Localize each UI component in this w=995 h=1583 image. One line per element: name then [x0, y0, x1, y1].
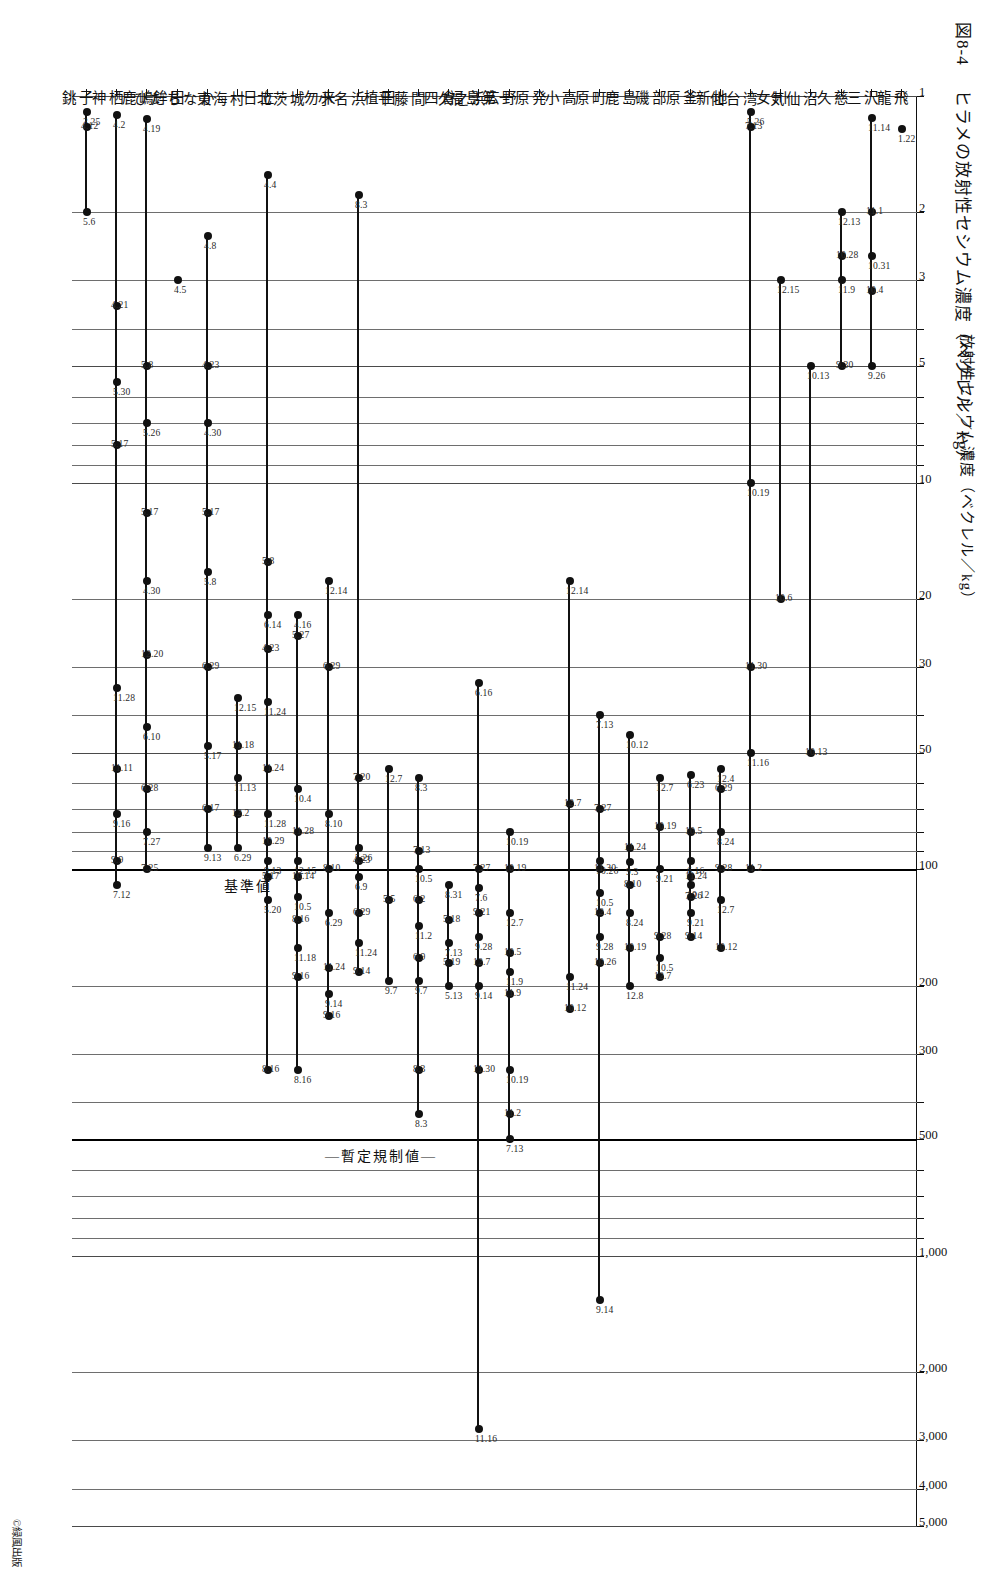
data-point[interactable] [355, 844, 363, 852]
gridline-3 [72, 280, 917, 281]
data-point-date-label: 7.20 [353, 771, 371, 782]
data-point[interactable] [475, 679, 483, 687]
gridline-1000 [72, 1256, 917, 1257]
data-point[interactable] [566, 973, 574, 981]
data-point[interactable] [113, 810, 121, 818]
data-point-date-label: 5.13 [445, 990, 463, 1001]
data-point[interactable] [656, 774, 664, 782]
data-point-date-label: 12.7 [656, 782, 674, 793]
data-point[interactable] [415, 1110, 423, 1118]
x-tick-label-4000: 4,000 [919, 1478, 947, 1493]
data-point[interactable] [626, 982, 634, 990]
data-point[interactable] [687, 771, 695, 779]
data-point[interactable] [294, 857, 302, 865]
data-point-date-label: 10.4 [294, 793, 312, 804]
data-point-date-label: 7.27 [473, 862, 491, 873]
gridline-100 [72, 869, 917, 871]
data-point[interactable] [687, 881, 695, 889]
row-range-line [809, 366, 811, 753]
data-point[interactable] [113, 684, 121, 692]
gridline-200 [72, 986, 917, 987]
data-point[interactable] [294, 944, 302, 952]
data-point[interactable] [294, 1066, 302, 1074]
data-point[interactable] [747, 479, 755, 487]
category-label-text: 鹿島 [605, 86, 638, 107]
data-point[interactable] [294, 893, 302, 901]
data-point[interactable] [204, 568, 212, 576]
data-point[interactable] [234, 844, 242, 852]
data-point[interactable] [445, 939, 453, 947]
data-point[interactable] [325, 990, 333, 998]
data-point[interactable] [656, 865, 664, 873]
data-point[interactable] [687, 857, 695, 865]
data-point-date-label: 10.28 [836, 249, 859, 260]
data-point[interactable] [264, 857, 272, 865]
gridline-50 [72, 753, 917, 754]
data-point[interactable] [506, 1066, 514, 1074]
data-point[interactable] [596, 889, 604, 897]
data-point[interactable] [143, 419, 151, 427]
data-point[interactable] [294, 611, 302, 619]
data-point[interactable] [747, 749, 755, 757]
data-point[interactable] [475, 982, 483, 990]
data-point[interactable] [355, 939, 363, 947]
data-point[interactable] [475, 1425, 483, 1433]
data-point-date-label: 9.9 [111, 854, 124, 865]
data-point[interactable] [596, 1296, 604, 1304]
data-point[interactable] [204, 232, 212, 240]
data-point[interactable] [264, 896, 272, 904]
data-point[interactable] [626, 731, 634, 739]
data-point[interactable] [83, 108, 91, 116]
gridline-minor-80 [72, 832, 917, 833]
data-point[interactable] [868, 362, 876, 370]
data-point[interactable] [415, 774, 423, 782]
data-point[interactable] [717, 828, 725, 836]
data-point-date-label: 5.27 [292, 629, 310, 640]
data-point[interactable] [264, 810, 272, 818]
data-point[interactable] [415, 922, 423, 930]
data-point-date-label: 9.14 [353, 965, 371, 976]
data-point[interactable] [234, 774, 242, 782]
data-point[interactable] [415, 865, 423, 873]
data-point[interactable] [264, 611, 272, 619]
data-point[interactable] [445, 881, 453, 889]
data-point[interactable] [113, 881, 121, 889]
data-point-date-label: 6.29 [234, 852, 252, 863]
data-point[interactable] [204, 742, 212, 750]
data-point-date-label: 9.14 [325, 998, 343, 1009]
x-tick-minor-700 [917, 1196, 924, 1197]
data-point-date-label: 4.30 [204, 427, 222, 438]
gridline-minor-40 [72, 715, 917, 716]
data-point[interactable] [264, 171, 272, 179]
data-point[interactable] [325, 810, 333, 818]
data-point[interactable] [143, 828, 151, 836]
data-point[interactable] [294, 785, 302, 793]
data-point[interactable] [385, 765, 393, 773]
data-point[interactable] [445, 982, 453, 990]
data-point[interactable] [506, 828, 514, 836]
data-point[interactable] [204, 419, 212, 427]
data-point-date-label: 8.3 [415, 782, 428, 793]
x-tick-minor-400 [917, 1102, 924, 1103]
data-point[interactable] [204, 844, 212, 852]
data-point-date-label: 1.22 [898, 133, 916, 144]
data-point[interactable] [717, 896, 725, 904]
data-point-date-label: 6.14 [264, 619, 282, 630]
data-point[interactable] [113, 111, 121, 119]
data-point[interactable] [717, 765, 725, 773]
data-point-date-label: 9.16 [323, 1009, 341, 1020]
row-range-line [296, 615, 298, 1070]
data-point[interactable] [355, 191, 363, 199]
data-point[interactable] [747, 108, 755, 116]
data-point-date-label: 9.28 [715, 862, 733, 873]
data-point[interactable] [234, 694, 242, 702]
data-point[interactable] [475, 884, 483, 892]
data-point[interactable] [807, 362, 815, 370]
data-point-date-label: 7.13 [596, 719, 614, 730]
gridline-2 [72, 212, 917, 213]
data-point-date-label: 12.4 [594, 906, 612, 917]
row-range-line [236, 698, 238, 848]
x-tick-label-20: 20 [919, 588, 932, 603]
data-point-date-label: 11.30 [594, 862, 616, 873]
data-point[interactable] [868, 114, 876, 122]
